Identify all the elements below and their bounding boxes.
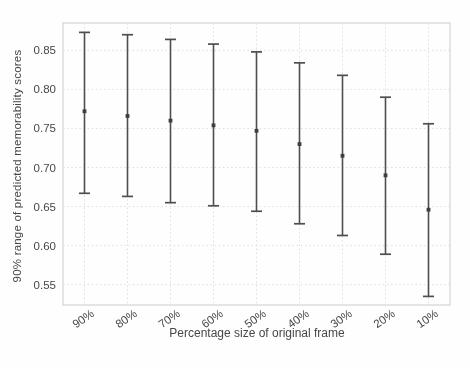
y-axis-label: 90% range of predicted memorability scor… <box>11 50 23 283</box>
center-marker <box>126 114 130 118</box>
center-marker <box>298 142 302 146</box>
center-marker <box>83 109 87 113</box>
y-tick-label: 0.55 <box>34 279 56 291</box>
errorbar-chart-figure: 90% range of predicted memorability scor… <box>0 0 470 368</box>
y-tick-label: 0.70 <box>34 162 56 174</box>
y-tick-label: 0.75 <box>34 122 56 134</box>
center-marker <box>341 154 345 158</box>
center-marker <box>255 129 259 133</box>
center-marker <box>384 173 388 177</box>
y-tick-label: 0.85 <box>34 44 56 56</box>
plot-canvas: 0.550.600.650.700.750.800.8590%80%70%60%… <box>0 0 470 368</box>
y-tick-label: 0.80 <box>34 83 56 95</box>
center-marker <box>169 119 173 123</box>
x-axis-label: Percentage size of original frame <box>169 326 344 340</box>
x-tick-label: 90% <box>70 307 96 330</box>
x-tick-label: 20% <box>371 307 397 330</box>
y-tick-label: 0.60 <box>34 240 56 252</box>
y-tick-label: 0.65 <box>34 201 56 213</box>
x-tick-label: 80% <box>113 307 139 330</box>
center-marker <box>427 208 431 212</box>
x-tick-label: 10% <box>414 307 440 330</box>
center-marker <box>212 123 216 127</box>
